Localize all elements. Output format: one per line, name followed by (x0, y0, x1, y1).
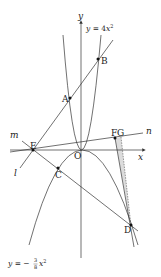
label-g: G (117, 128, 124, 138)
label-c: C (55, 170, 62, 180)
lower-parabola-equation: y = − (7, 259, 30, 268)
coordinate-diagram: A B C D E F G x y O l m n y = 4x2 y = − … (0, 0, 161, 277)
fraction-numerator: 3 (34, 257, 37, 263)
label-e: E (30, 141, 37, 151)
label-a: A (61, 94, 69, 104)
point-a (69, 97, 72, 100)
line-m-label: m (10, 130, 19, 140)
fraction-denominator: 8 (34, 264, 37, 270)
point-b (97, 58, 100, 61)
label-b: B (101, 56, 108, 66)
origin-label: O (74, 151, 81, 161)
line-l-label: l (14, 168, 17, 178)
upper-parabola-curve (63, 35, 101, 150)
x-axis-label: x (138, 152, 143, 162)
line-n-label: n (146, 126, 152, 136)
y-axis-label: y (77, 11, 84, 21)
upper-parabola-equation: y = 4x2 (85, 23, 114, 33)
lower-parabola-var: x2 (39, 258, 46, 268)
label-d: D (124, 225, 131, 235)
